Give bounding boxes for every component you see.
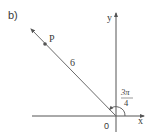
polar-diagram: b) y x 0 P 6 3π 4 [0, 0, 149, 135]
length-label: 6 [70, 57, 75, 68]
origin-label: 0 [104, 121, 109, 131]
angle-numerator: 3π [120, 87, 130, 97]
ray-op [31, 29, 116, 116]
point-p [43, 42, 47, 46]
point-p-label: P [49, 33, 55, 44]
x-axis-label: x [138, 115, 143, 126]
angle-denominator: 4 [124, 98, 129, 108]
part-label: b) [8, 9, 18, 21]
y-axis-label: y [107, 12, 112, 23]
